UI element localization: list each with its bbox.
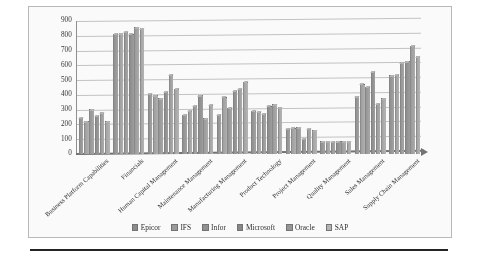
bar-group	[215, 21, 250, 154]
y-tick-label: 700	[46, 47, 72, 54]
bar	[257, 112, 262, 154]
bar	[347, 141, 352, 154]
legend-swatch-icon	[171, 224, 178, 231]
bar	[182, 115, 187, 154]
bar	[113, 34, 118, 154]
bar	[169, 75, 174, 154]
legend-label: IFS	[180, 223, 191, 232]
y-tick-label: 900	[46, 17, 72, 24]
bar	[416, 56, 421, 154]
bar	[291, 128, 296, 154]
bar	[400, 62, 405, 154]
bar	[217, 115, 222, 154]
legend-swatch-icon	[326, 224, 333, 231]
bar	[320, 141, 325, 154]
bar-group	[77, 21, 112, 154]
bar	[296, 127, 301, 154]
bar	[148, 94, 153, 154]
legend-swatch-icon	[132, 224, 139, 231]
legend-item[interactable]: Oracle	[286, 223, 315, 232]
bar	[307, 129, 312, 154]
category-label: Manufacturing Management	[186, 157, 247, 213]
bar	[209, 105, 214, 154]
bar	[84, 121, 89, 154]
bar	[243, 82, 248, 154]
y-tick-label: 600	[46, 62, 72, 69]
bar	[278, 107, 283, 154]
bar	[158, 98, 163, 154]
x-axis-arrow-icon	[421, 148, 428, 156]
bar	[376, 104, 381, 155]
bar	[129, 34, 134, 154]
legend-label: Microsoft	[246, 223, 275, 232]
bar-group	[250, 21, 285, 154]
bar	[233, 91, 238, 154]
bar	[410, 46, 415, 154]
bar-group	[146, 21, 181, 154]
legend-label: Infor	[211, 223, 226, 232]
y-tick-label: 100	[46, 136, 72, 143]
chart-legend: EpicorIFSInforMicrosoftOracleSAP	[29, 223, 451, 232]
bar	[331, 142, 336, 154]
y-axis-tick-labels: 0100200300400500600700800900	[42, 21, 72, 154]
bar	[355, 96, 360, 154]
bar	[140, 28, 145, 154]
legend-label: Oracle	[295, 223, 315, 232]
bar	[365, 87, 370, 155]
bar-group	[112, 21, 147, 154]
bar	[164, 92, 169, 154]
bar	[341, 141, 346, 154]
bar	[286, 129, 291, 154]
bar	[360, 84, 365, 154]
bar	[105, 121, 110, 154]
legend-item[interactable]: Infor	[202, 223, 226, 232]
bar-group	[353, 21, 388, 154]
bar	[153, 95, 158, 154]
legend-swatch-icon	[237, 224, 244, 231]
bar-group	[388, 21, 423, 154]
bar	[174, 89, 179, 154]
legend-item[interactable]: Epicor	[132, 223, 161, 232]
bar	[119, 33, 124, 154]
bar	[405, 61, 410, 154]
bar	[302, 139, 307, 154]
page-divider-rule	[30, 249, 448, 251]
x-axis-category-labels: Business Platform CapabilitiesFinancials…	[77, 157, 422, 219]
chart-container: 0100200300400500600700800900 Business Pl…	[28, 6, 452, 238]
bar	[124, 32, 129, 154]
bar	[326, 141, 331, 154]
bar	[227, 108, 232, 154]
bar	[198, 95, 203, 154]
bar	[251, 111, 256, 154]
bar	[395, 75, 400, 154]
y-tick-label: 300	[46, 106, 72, 113]
legend-swatch-icon	[202, 224, 209, 231]
bar-group	[284, 21, 319, 154]
legend-item[interactable]: SAP	[326, 223, 349, 232]
category-label: Human Capital Management	[117, 157, 179, 214]
bar	[222, 97, 227, 154]
bar-group	[319, 21, 354, 154]
bar	[389, 75, 394, 154]
legend-item[interactable]: Microsoft	[237, 223, 275, 232]
bar	[193, 106, 198, 154]
bar-groups	[77, 21, 422, 154]
bar	[238, 89, 243, 154]
y-tick-label: 400	[46, 91, 72, 98]
legend-item[interactable]: IFS	[171, 223, 191, 232]
y-tick-label: 0	[46, 150, 72, 157]
bar-group	[181, 21, 216, 154]
bar	[95, 116, 100, 154]
bar	[79, 118, 84, 154]
category-label: Financials	[119, 157, 144, 181]
bar	[134, 27, 139, 154]
legend-swatch-icon	[286, 224, 293, 231]
bar	[381, 98, 386, 154]
legend-label: SAP	[335, 223, 349, 232]
bar	[312, 130, 317, 154]
bar	[267, 106, 272, 154]
bar	[262, 114, 267, 154]
y-tick-label: 800	[46, 32, 72, 39]
bar	[188, 111, 193, 154]
bar	[371, 72, 376, 154]
